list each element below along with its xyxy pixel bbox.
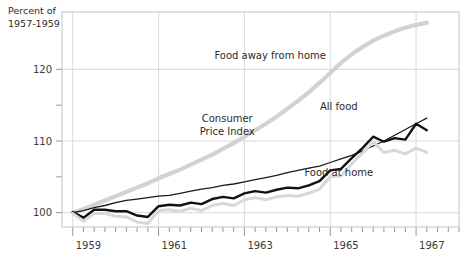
x-axis-tick-label: 1959 (76, 240, 101, 251)
x-axis-tick-label: 1961 (162, 240, 187, 251)
x-axis-tick-label: 1963 (247, 240, 272, 251)
x-axis-tick-label: 1967 (419, 240, 444, 251)
x-axis-minor-ticks (73, 227, 459, 236)
y-axis-tick-label: 110 (33, 136, 52, 147)
y-axis-title-line2: 1957-1959 (8, 18, 60, 29)
chart-canvas: 100110120 19591961196319651967 Food away… (0, 0, 466, 262)
y-axis-tick-label: 100 (33, 207, 52, 218)
series-annotation-label: Price Index (200, 126, 255, 137)
y-axis-tick-labels: 100110120 (33, 64, 62, 218)
y-axis-tick-label: 120 (33, 64, 52, 75)
y-axis-title-line1: Percent of (8, 5, 57, 16)
x-axis-tick-label: 1965 (333, 240, 358, 251)
series-annotation-label: Food away from home (214, 50, 326, 61)
series-annotation-label: Food at home (304, 167, 373, 178)
series-annotation-label: Consumer (202, 113, 254, 124)
x-axis-tick-labels: 19591961196319651967 (76, 240, 445, 251)
series-annotation-label: All food (320, 101, 358, 112)
chart-figure: 100110120 19591961196319651967 Food away… (0, 0, 466, 262)
